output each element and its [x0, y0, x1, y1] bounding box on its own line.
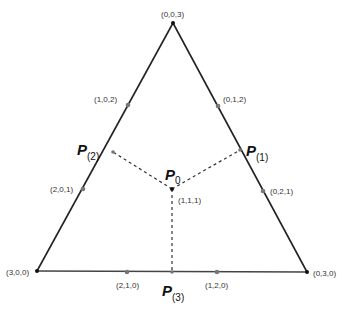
- label-vertex-bottom-left: (3,0,0): [6, 268, 29, 277]
- label-bottom-right: (1,2,0): [205, 281, 228, 290]
- dashed-line-p2: [113, 152, 172, 189]
- label-left-upper: (1,0,2): [94, 95, 117, 104]
- marker-bottom-left: [125, 270, 130, 275]
- ternary-diagram: (0,0,3) (3,0,0) (0,3,0) (1,0,2) (2,0,1) …: [0, 0, 346, 310]
- marker-p2: [111, 150, 115, 154]
- label-left-lower: (2,0,1): [50, 185, 73, 194]
- label-right-upper: (0,1,2): [223, 95, 246, 104]
- dashed-line-p1: [172, 150, 240, 189]
- edge-right: [173, 23, 307, 272]
- label-bottom-left: (2,1,0): [116, 281, 139, 290]
- label-p3: P(3): [162, 282, 184, 303]
- label-p0: P0: [165, 166, 181, 186]
- vertex-bottom-right-dot: [305, 270, 309, 274]
- label-p2: P(2): [77, 141, 99, 162]
- label-p1: P(1): [246, 142, 268, 163]
- label-vertex-top: (0,0,3): [161, 10, 184, 19]
- marker-right-upper: [216, 104, 221, 109]
- edge-left: [37, 23, 173, 271]
- marker-right-lower: [261, 189, 266, 194]
- marker-p3: [170, 270, 174, 274]
- label-right-lower: (0,2,1): [270, 187, 293, 196]
- marker-p1: [238, 148, 242, 152]
- vertex-bottom-left-dot: [35, 269, 39, 273]
- label-vertex-bottom-right: (0,3,0): [313, 269, 336, 278]
- marker-left-upper: [126, 103, 131, 108]
- vertex-top-dot: [171, 21, 175, 25]
- center-dot: [170, 187, 174, 191]
- marker-left-lower: [81, 187, 86, 192]
- label-center: (1,1,1): [178, 196, 201, 205]
- marker-bottom-right: [215, 270, 220, 275]
